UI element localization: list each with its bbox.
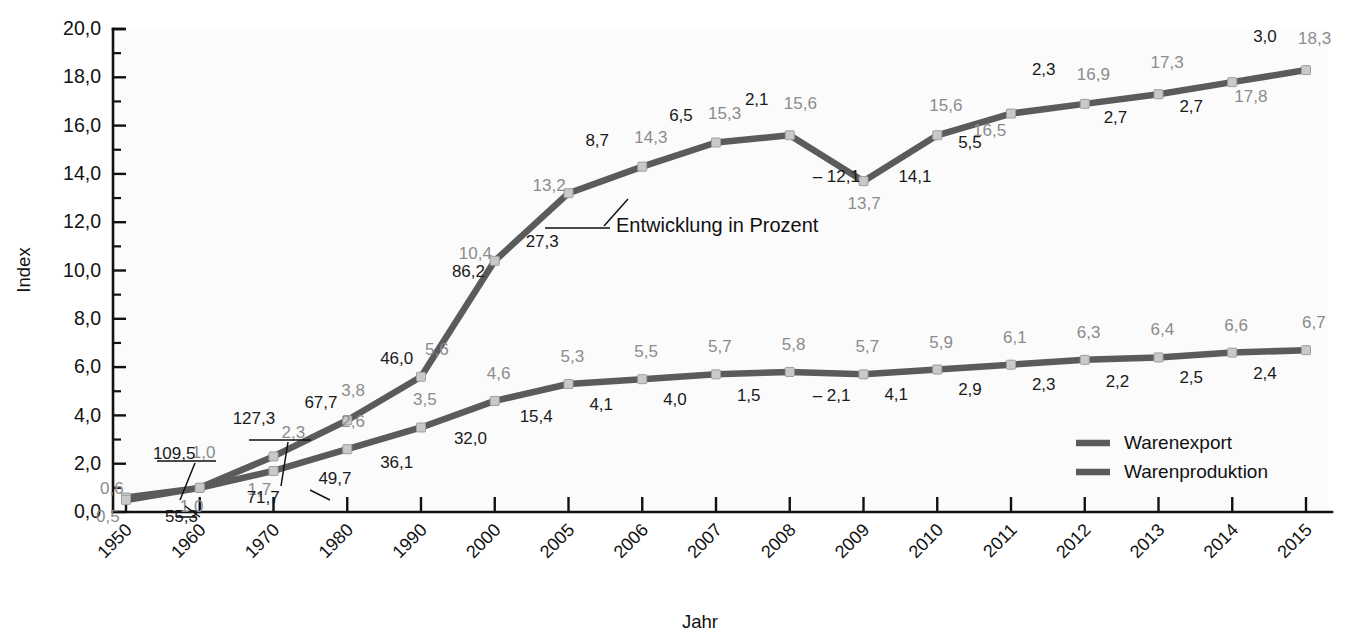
- value-label-warenexport-2005: 13,2: [533, 176, 566, 195]
- growth-label-warenexport-2010-2011: 5,5: [958, 133, 982, 152]
- growth-label-warenproduktion-2011-2012: 2,3: [1032, 375, 1056, 394]
- value-label-warenproduktion-2015: 6,7: [1302, 313, 1326, 332]
- data-point-warenproduktion-1980: [343, 445, 352, 454]
- growth-label-warenproduktion-1980-1990: 36,1: [380, 453, 413, 472]
- growth-label-warenproduktion-2006-2007: 4,0: [663, 390, 687, 409]
- x-tick-label-2008: 2008: [757, 520, 799, 562]
- growth-label-warenexport-1950-1960: 109,5: [153, 444, 196, 463]
- x-tick-label-2005: 2005: [536, 520, 578, 562]
- growth-label-warenexport-2012-2013: 2,7: [1104, 108, 1128, 127]
- growth-label-warenexport-1980-1990: 46,0: [380, 349, 413, 368]
- annotation-text: Entwicklung in Prozent: [616, 214, 819, 236]
- growth-label-warenproduktion-2012-2013: 2,2: [1106, 372, 1130, 391]
- value-label-warenproduktion-2010: 5,9: [929, 333, 953, 352]
- data-point-warenproduktion-1960: [195, 483, 204, 492]
- value-label-warenexport-2012: 16,9: [1077, 65, 1110, 84]
- growth-label-warenproduktion-2010-2011: 2,9: [958, 380, 982, 399]
- data-point-warenproduktion-2012: [1080, 355, 1089, 364]
- value-label-warenexport-2006: 14,3: [634, 128, 667, 147]
- growth-label-warenexport-2009-2010: 14,1: [898, 167, 931, 186]
- data-point-warenexport-2015: [1302, 66, 1311, 75]
- data-point-warenexport-2006: [638, 162, 647, 171]
- x-tick-label-2006: 2006: [610, 520, 652, 562]
- value-label-warenproduktion-2007: 5,7: [708, 337, 732, 356]
- value-label-warenexport-2007: 15,3: [708, 104, 741, 123]
- value-label-warenproduktion-2006: 5,5: [634, 342, 658, 361]
- value-label-warenexport-2013: 17,3: [1151, 53, 1184, 72]
- value-label-warenexport-1990: 5,6: [425, 340, 449, 359]
- value-label-warenexport-2000: 10,4: [459, 244, 492, 263]
- legend-label-warenexport[interactable]: Warenexport: [1124, 432, 1233, 453]
- value-label-warenexport-2008: 15,6: [784, 94, 817, 113]
- data-point-warenproduktion-2009: [859, 370, 868, 379]
- x-tick-label-2015: 2015: [1273, 520, 1315, 562]
- y-tick-label: 12,0: [63, 210, 101, 232]
- growth-label-warenproduktion-2013-2014: 2,5: [1179, 368, 1203, 387]
- chart-container: 0,02,04,06,08,010,012,014,016,018,020,0 …: [0, 0, 1349, 644]
- growth-label-warenexport-2007-2008: 2,1: [745, 90, 769, 109]
- data-point-warenproduktion-2013: [1154, 353, 1163, 362]
- growth-label-warenproduktion-1990-2000: 32,0: [454, 429, 487, 448]
- data-point-warenexport-2009: [859, 177, 868, 186]
- growth-label-warenproduktion-2014-2015: 2,4: [1253, 364, 1277, 383]
- value-label-warenproduktion-2000: 4,6: [487, 364, 511, 383]
- value-label-warenproduktion-2008: 5,8: [782, 335, 806, 354]
- y-tick-label: 8,0: [74, 307, 101, 329]
- growth-label-warenexport-1990-2000: 86,2: [452, 262, 485, 281]
- growth-label-warenproduktion-1970-1980: 49,7: [318, 469, 351, 488]
- data-point-warenproduktion-2005: [564, 380, 573, 389]
- growth-label-warenproduktion-2005-2006: 4,1: [589, 395, 613, 414]
- value-label-warenproduktion-2011: 6,1: [1003, 328, 1027, 347]
- x-tick-label-group: 1950196019701980199020002005200620072008…: [93, 520, 1315, 562]
- data-point-warenproduktion-2008: [785, 367, 794, 376]
- value-label-warenexport-2015: 18,3: [1298, 29, 1331, 48]
- y-tick-label: 10,0: [63, 259, 101, 281]
- y-tick-label-group: 0,02,04,06,08,010,012,014,016,018,020,0: [63, 17, 101, 522]
- data-point-warenexport-2013: [1154, 90, 1163, 99]
- value-label-warenproduktion-2005: 5,3: [561, 347, 585, 366]
- data-point-warenexport-2007: [712, 138, 721, 147]
- x-tick-label-1970: 1970: [241, 520, 283, 562]
- data-point-warenproduktion-2000: [490, 396, 499, 405]
- x-tick-label-2010: 2010: [905, 520, 947, 562]
- x-tick-label-2013: 2013: [1126, 520, 1168, 562]
- growth-label-warenexport-2000-2005: 27,3: [526, 232, 559, 251]
- x-tick-label-1950: 1950: [93, 520, 135, 562]
- value-label-warenexport-2014: 17,8: [1234, 87, 1267, 106]
- data-point-warenexport-1990: [417, 372, 426, 381]
- data-point-warenproduktion-1970: [269, 466, 278, 475]
- x-tick-label-1980: 1980: [315, 520, 357, 562]
- x-tick-label-1960: 1960: [167, 520, 209, 562]
- y-tick-label: 18,0: [63, 65, 101, 87]
- value-label-warenproduktion-2009: 5,7: [856, 337, 880, 356]
- value-label-warenproduktion-1990: 3,5: [413, 390, 437, 409]
- growth-label-warenexport-1970-1980: 67,7: [304, 393, 337, 412]
- x-tick-label-2014: 2014: [1200, 520, 1242, 562]
- growth-label-warenexport-1960-1970: 127,3: [233, 409, 276, 428]
- data-point-warenproduktion-2006: [638, 375, 647, 384]
- data-point-warenexport-1970: [269, 452, 278, 461]
- data-point-warenexport-2012: [1080, 99, 1089, 108]
- data-point-warenexport-2014: [1228, 78, 1237, 87]
- value-label-warenproduktion-2014: 6,6: [1224, 316, 1248, 335]
- growth-label-warenproduktion-1960-1970: 71,7: [247, 488, 280, 507]
- growth-label-warenproduktion-2007-2008: 1,5: [737, 386, 761, 405]
- data-point-warenproduktion-2010: [933, 365, 942, 374]
- value-label-warenproduktion-1980: 2,6: [341, 412, 365, 431]
- growth-label-warenexport-2005-2006: 8,7: [585, 131, 609, 150]
- growth-label-warenexport-2011-2012: 2,3: [1032, 60, 1056, 79]
- y-tick-label: 16,0: [63, 114, 101, 136]
- data-point-warenexport-2011: [1007, 109, 1016, 118]
- value-label-warenproduktion-2012: 6,3: [1077, 323, 1101, 342]
- y-axis-title: Index: [13, 247, 34, 293]
- legend-label-warenproduktion[interactable]: Warenproduktion: [1124, 461, 1268, 482]
- data-point-warenproduktion-2007: [712, 370, 721, 379]
- data-point-warenproduktion-2014: [1228, 348, 1237, 357]
- value-label-warenexport-2009: 13,7: [848, 194, 881, 213]
- growth-label-warenexport-2008-2009: – 12,1: [813, 167, 860, 186]
- value-label-warenproduktion-2013: 6,4: [1151, 320, 1175, 339]
- x-tick-label-2011: 2011: [979, 520, 1021, 562]
- x-tick-label-2009: 2009: [831, 520, 873, 562]
- data-point-warenexport-2010: [933, 131, 942, 140]
- growth-label-warenexport-2013-2014: 2,7: [1179, 97, 1203, 116]
